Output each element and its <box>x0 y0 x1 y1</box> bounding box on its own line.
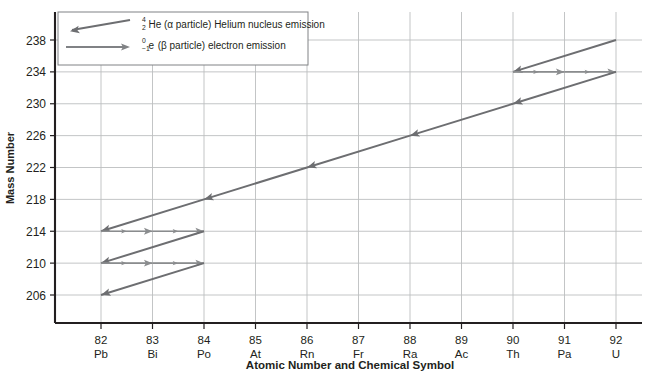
chart-legend: 42He(α particle) Helium nucleus emission… <box>58 12 325 65</box>
y-axis-tick-label: 234 <box>26 65 46 79</box>
x-axis-title: Atomic Number and Chemical Symbol <box>246 359 454 371</box>
x-axis-tick-symbol: Ac <box>455 348 469 360</box>
x-axis-tick-number: 87 <box>352 334 365 346</box>
x-axis-tick-symbol: Pb <box>94 348 108 360</box>
x-axis-tick-number: 86 <box>301 334 314 346</box>
x-axis-tick-number: 90 <box>507 334 520 346</box>
x-axis-tick-symbol: Th <box>506 348 519 360</box>
legend-description: (α particle) Helium nucleus emission <box>164 19 325 30</box>
chart-canvas: 23823423022622221821421020682Pb83Bi84Po8… <box>0 0 666 373</box>
x-axis-tick-number: 91 <box>558 334 571 346</box>
decay-series-chart: 23823423022622221821421020682Pb83Bi84Po8… <box>0 0 666 373</box>
y-axis-tick-label: 206 <box>26 289 46 303</box>
x-axis-tick-number: 83 <box>146 334 159 346</box>
x-axis-tick-number: 82 <box>95 334 108 346</box>
y-axis-tick-label: 214 <box>26 225 46 239</box>
x-axis-tick-number: 88 <box>404 334 417 346</box>
y-axis-tick-label: 238 <box>26 34 46 48</box>
x-axis-tick-number: 92 <box>610 334 623 346</box>
legend-atomic-number: 2 <box>142 24 146 31</box>
x-axis-tick-number: 84 <box>198 334 211 346</box>
y-axis-title: Mass Number <box>4 131 16 204</box>
y-axis-tick-label: 226 <box>26 129 46 143</box>
x-axis-tick-number: 89 <box>455 334 468 346</box>
x-axis-tick-symbol: Bi <box>147 348 157 360</box>
y-axis-tick-label: 210 <box>26 257 46 271</box>
legend-mass-number: 0 <box>142 37 146 44</box>
legend-element-symbol: e <box>149 40 155 51</box>
x-axis-tick-symbol: Pa <box>557 348 572 360</box>
legend-mass-number: 4 <box>142 16 146 23</box>
x-axis-tick-symbol: U <box>612 348 620 360</box>
legend-description: (β particle) electron emission <box>158 40 286 51</box>
x-axis-tick-number: 85 <box>249 334 262 346</box>
x-axis-tick-symbol: Po <box>197 348 211 360</box>
legend-element-symbol: He <box>149 19 162 30</box>
y-axis-tick-label: 218 <box>26 193 46 207</box>
y-axis-tick-label: 222 <box>26 161 46 175</box>
y-axis-tick-label: 230 <box>26 97 46 111</box>
